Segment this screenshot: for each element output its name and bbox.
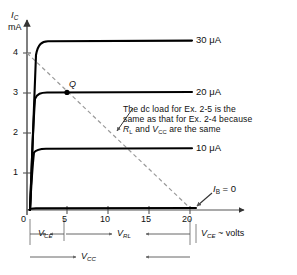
ib-zero-callout-arrow (197, 193, 212, 206)
x-axis-unit-tail: ~ volts (216, 228, 245, 238)
x-tick-label-20: 20 (182, 214, 192, 225)
dimension-label-vcc: VCC (81, 251, 96, 262)
transistor-characteristic-figure: IC mA 4 3 2 1 0 5 10 15 20 30 μA 20 μA 1… (0, 0, 297, 275)
dim-vrl-subscript: RL (123, 232, 131, 239)
y-axis-subscript: C (14, 14, 19, 21)
y-tick-label-3: 3 (13, 87, 18, 98)
dim-vce-subscript: CE (44, 232, 53, 239)
ib-zero-subscript: B (216, 188, 220, 195)
curve-label-30ua: 30 μA (196, 34, 221, 45)
annotation-and: and (133, 124, 153, 134)
curve-10ua (30, 148, 192, 210)
ib-zero-text: = 0 (220, 183, 236, 194)
annotation-line-2: same as that for Ex. 2-4 because (123, 114, 252, 124)
x-tick-label-15: 15 (141, 214, 151, 225)
q-point-label: Q (69, 79, 76, 90)
curve-label-20ua: 20 μA (196, 86, 221, 97)
annotation-tail: are the same (167, 124, 221, 134)
y-tick-label-2: 2 (13, 127, 18, 138)
x-tick-label-5: 5 (62, 214, 67, 225)
annotation-vcc-sub: CC (158, 129, 167, 135)
x-tick-label-10: 10 (100, 214, 110, 225)
q-point-marker (64, 90, 69, 95)
x-axis-subscript: CE (207, 232, 216, 239)
x-axis-title: VCE ~ volts (201, 228, 244, 239)
y-axis-unit: mA (8, 22, 22, 33)
y-tick-label-1: 1 (13, 167, 18, 178)
y-tick-label-4: 4 (13, 47, 18, 58)
dim-vcc-subscript: CC (87, 255, 96, 262)
x-tick-label-0: 0 (21, 214, 26, 225)
ib-zero-label: IB = 0 (213, 183, 236, 194)
y-axis-title: IC (11, 9, 18, 20)
annotation-rl-sub: L (129, 129, 132, 135)
dimension-label-vrl: VRL (117, 228, 131, 239)
annotation-line-1: The dc load for Ex. 2-5 is the (123, 104, 252, 114)
dimension-label-vce: VCE (38, 228, 53, 239)
annotation-line-3: RL and VCC are the same (123, 124, 252, 134)
annotation-block: The dc load for Ex. 2-5 is the same as t… (123, 104, 252, 134)
curve-label-10ua: 10 μA (196, 142, 221, 153)
